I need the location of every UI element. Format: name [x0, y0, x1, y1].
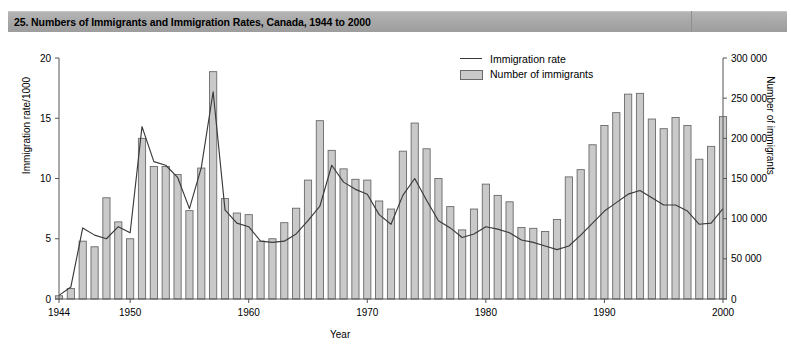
bar-1968	[340, 169, 347, 299]
bar-1951	[138, 138, 145, 299]
bar-1952	[150, 166, 157, 299]
svg-text:0: 0	[45, 294, 51, 305]
svg-text:10: 10	[40, 173, 52, 184]
bar-1998	[696, 159, 703, 299]
svg-text:0: 0	[731, 294, 737, 305]
svg-text:100 000: 100 000	[731, 213, 768, 224]
bar-1961	[257, 241, 264, 299]
bar-1963	[281, 223, 288, 299]
svg-text:200 000: 200 000	[731, 133, 768, 144]
bar-1979	[470, 209, 477, 299]
svg-text:1980: 1980	[475, 307, 498, 318]
svg-text:2000: 2000	[712, 307, 735, 318]
svg-text:250 000: 250 000	[731, 93, 768, 104]
figure: 25. Numbers of Immigrants and Immigratio…	[0, 0, 791, 350]
svg-text:150 000: 150 000	[731, 173, 768, 184]
svg-text:1970: 1970	[356, 307, 379, 318]
bar-1948	[103, 198, 110, 299]
bar-1981	[494, 195, 501, 299]
chart-plot-area: 05101520050 000100 000150 000200 000250 …	[0, 0, 791, 350]
bar-1995	[660, 129, 667, 299]
bar-series	[55, 72, 726, 299]
bar-1973	[399, 151, 406, 299]
bar-1980	[482, 184, 489, 299]
bar-1958	[221, 199, 228, 299]
svg-text:300 000: 300 000	[731, 53, 768, 64]
svg-text:15: 15	[40, 113, 52, 124]
bar-1989	[589, 145, 596, 299]
bar-1954	[174, 174, 181, 299]
svg-text:5: 5	[45, 233, 51, 244]
bar-1975	[423, 149, 430, 299]
bar-1946	[79, 241, 86, 299]
bar-1959	[233, 213, 240, 299]
bar-1974	[411, 123, 418, 299]
bar-1994	[648, 119, 655, 299]
svg-text:1960: 1960	[238, 307, 261, 318]
bar-1953	[162, 166, 169, 299]
bar-1997	[684, 125, 691, 299]
bar-1965	[304, 180, 311, 299]
svg-text:20: 20	[40, 53, 52, 64]
svg-text:1944: 1944	[48, 307, 71, 318]
bar-1987	[565, 177, 572, 299]
bar-1978	[459, 230, 466, 299]
bar-1985	[542, 232, 549, 299]
bar-1977	[447, 207, 454, 299]
bar-1971	[376, 201, 383, 299]
bar-1986	[553, 219, 560, 299]
bar-1982	[506, 202, 513, 299]
bar-1950	[127, 239, 134, 299]
bar-1949	[115, 222, 122, 299]
bar-1945	[67, 289, 74, 299]
bar-1956	[198, 168, 205, 299]
svg-text:50 000: 50 000	[731, 253, 762, 264]
svg-text:1950: 1950	[119, 307, 142, 318]
bar-1964	[293, 208, 300, 299]
svg-text:1990: 1990	[593, 307, 616, 318]
bar-1984	[530, 228, 537, 299]
bar-1991	[613, 113, 620, 299]
bar-1947	[91, 247, 98, 299]
bar-1962	[269, 239, 276, 299]
bar-1955	[186, 211, 193, 299]
bar-1990	[601, 125, 608, 299]
bar-1993	[636, 93, 643, 299]
bar-1996	[672, 117, 679, 299]
bar-1969	[352, 179, 359, 299]
bar-1976	[435, 179, 442, 300]
